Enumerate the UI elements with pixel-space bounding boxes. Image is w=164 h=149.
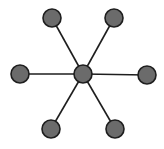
node-bottom-right: [106, 120, 124, 138]
node-hub: [74, 65, 92, 83]
star-graph-diagram: [0, 0, 164, 149]
node-right: [138, 66, 156, 84]
node-left: [11, 65, 29, 83]
node-top-left: [43, 9, 61, 27]
node-top-right: [105, 9, 123, 27]
node-bottom-left: [42, 120, 60, 138]
